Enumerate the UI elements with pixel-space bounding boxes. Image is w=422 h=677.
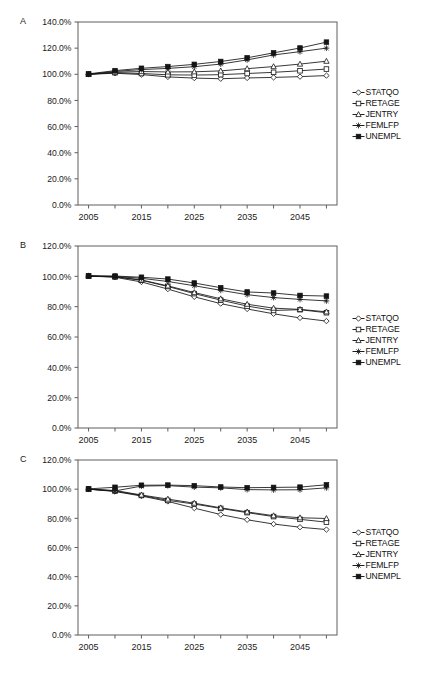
x-tick-label: 2035 — [237, 212, 257, 222]
open-square-marker-icon — [352, 538, 365, 549]
x-tick-label: 2015 — [131, 212, 151, 222]
filled-square-marker-icon — [352, 571, 365, 582]
legend-item-femlfp: FEMLFP — [352, 346, 401, 357]
legend-item-femlfp: FEMLFP — [352, 560, 401, 571]
legend-label: STATQO — [365, 87, 399, 98]
open-triangle-marker-icon — [352, 109, 365, 120]
star-marker-icon — [352, 120, 365, 131]
star-marker-icon — [352, 560, 365, 571]
legend-label: UNEMPL — [365, 131, 401, 142]
legend-item-unempl: UNEMPL — [352, 357, 401, 368]
open-diamond-marker-icon — [352, 527, 365, 538]
x-tick-label: 2005 — [79, 642, 99, 652]
legend-label: FEMLFP — [365, 560, 399, 571]
y-tick-label: 40.0% — [47, 148, 72, 158]
y-tick-label: 100.0% — [42, 69, 72, 79]
y-tick-label: 0.0% — [52, 200, 72, 210]
y-tick-label: 60.0% — [47, 332, 72, 342]
y-tick-label: 60.0% — [47, 543, 72, 553]
open-triangle-marker-icon — [352, 335, 365, 346]
legend-label: UNEMPL — [365, 571, 401, 582]
open-triangle-marker-icon — [352, 549, 365, 560]
filled-square-marker-icon — [352, 357, 365, 368]
legend-label: UNEMPL — [365, 357, 401, 368]
legend-label: JENTRY — [365, 549, 398, 560]
open-diamond-marker-icon — [352, 313, 365, 324]
star-marker-icon — [352, 346, 365, 357]
legend-item-jentry: JENTRY — [352, 109, 401, 120]
x-tick-label: 2045 — [290, 212, 310, 222]
legend-item-retage: RETAGE — [352, 538, 401, 549]
chart-panel-b: B0.0%20.0%40.0%60.0%80.0%100.0%120.0%200… — [0, 226, 422, 451]
y-tick-label: 80.0% — [47, 96, 72, 106]
legend-item-femlfp: FEMLFP — [352, 120, 401, 131]
legend-item-jentry: JENTRY — [352, 549, 401, 560]
legend-item-statqo: STATQO — [352, 527, 401, 538]
y-tick-label: 100.0% — [42, 272, 72, 282]
y-tick-label: 140.0% — [42, 17, 72, 27]
y-tick-label: 40.0% — [47, 572, 72, 582]
x-tick-label: 2035 — [237, 642, 257, 652]
legend-label: FEMLFP — [365, 120, 399, 131]
legend-label: RETAGE — [365, 538, 400, 549]
legend-label: RETAGE — [365, 98, 400, 109]
y-tick-label: 120.0% — [42, 455, 72, 465]
chart-panel-c: C0.0%20.0%40.0%60.0%80.0%100.0%120.0%200… — [0, 452, 422, 677]
legend-label: JENTRY — [365, 335, 398, 346]
y-tick-label: 80.0% — [47, 514, 72, 524]
open-diamond-marker-icon — [352, 87, 365, 98]
legend-label: STATQO — [365, 527, 399, 538]
legend-item-retage: RETAGE — [352, 98, 401, 109]
legend-item-retage: RETAGE — [352, 324, 401, 335]
legend-label: STATQO — [365, 313, 399, 324]
figure-root: A0.0%20.0%40.0%60.0%80.0%100.0%120.0%140… — [0, 0, 422, 677]
y-tick-label: 120.0% — [42, 43, 72, 53]
y-tick-label: 100.0% — [42, 484, 72, 494]
y-tick-label: 20.0% — [47, 601, 72, 611]
chart-panel-a: A0.0%20.0%40.0%60.0%80.0%100.0%120.0%140… — [0, 0, 422, 225]
legend-item-statqo: STATQO — [352, 87, 401, 98]
x-tick-label: 2005 — [79, 212, 99, 222]
y-tick-label: 0.0% — [52, 423, 72, 433]
x-tick-label: 2045 — [290, 435, 310, 445]
x-tick-label: 2025 — [184, 642, 204, 652]
legend-item-unempl: UNEMPL — [352, 131, 401, 142]
y-tick-label: 120.0% — [42, 241, 72, 251]
chart-legend-a: STATQORETAGEJENTRYFEMLFPUNEMPL — [352, 87, 401, 142]
x-tick-label: 2045 — [290, 642, 310, 652]
x-tick-label: 2015 — [131, 642, 151, 652]
legend-item-statqo: STATQO — [352, 313, 401, 324]
series-markers-statqo — [86, 486, 329, 532]
y-tick-label: 40.0% — [47, 363, 72, 373]
y-tick-label: 80.0% — [47, 302, 72, 312]
y-tick-label: 0.0% — [52, 630, 72, 640]
x-tick-label: 2025 — [184, 212, 204, 222]
y-tick-label: 20.0% — [47, 174, 72, 184]
filled-square-marker-icon — [352, 131, 365, 142]
legend-item-unempl: UNEMPL — [352, 571, 401, 582]
series-markers-jentry — [86, 273, 329, 314]
x-tick-label: 2025 — [184, 435, 204, 445]
legend-label: FEMLFP — [365, 346, 399, 357]
legend-label: JENTRY — [365, 109, 398, 120]
x-tick-label: 2035 — [237, 435, 257, 445]
chart-legend-b: STATQORETAGEJENTRYFEMLFPUNEMPL — [352, 313, 401, 368]
legend-item-jentry: JENTRY — [352, 335, 401, 346]
legend-label: RETAGE — [365, 324, 400, 335]
x-tick-label: 2015 — [131, 435, 151, 445]
y-tick-label: 60.0% — [47, 122, 72, 132]
open-square-marker-icon — [352, 98, 365, 109]
x-tick-label: 2005 — [79, 435, 99, 445]
open-square-marker-icon — [352, 324, 365, 335]
y-tick-label: 20.0% — [47, 393, 72, 403]
chart-legend-c: STATQORETAGEJENTRYFEMLFPUNEMPL — [352, 527, 401, 582]
